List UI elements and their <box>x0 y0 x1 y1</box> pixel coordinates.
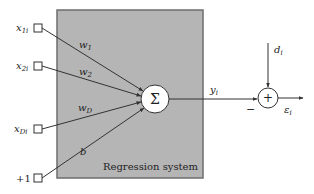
input-node-xD <box>34 125 42 133</box>
minus-sign: − <box>246 103 255 116</box>
regression-diagram: Regression system x1i x2i xDi +1 w1 w2 w… <box>0 0 314 194</box>
input-label-xD: xDi <box>14 123 28 136</box>
desired-label-d: di <box>274 44 283 57</box>
output-label-y: yi <box>209 84 218 97</box>
error-label-epsilon: εi <box>284 104 292 117</box>
weight-label-b: b <box>80 146 86 157</box>
input-node-x2 <box>34 62 42 70</box>
input-label-bias: +1 <box>16 173 31 184</box>
regression-system-label: Regression system <box>103 161 198 172</box>
input-label-x2: x2i <box>16 60 28 73</box>
sigma-icon: Σ <box>150 91 160 107</box>
input-node-bias <box>34 174 42 182</box>
input-label-x1: x1i <box>16 22 28 35</box>
input-node-x1 <box>34 24 42 32</box>
plus-icon: + <box>263 91 273 105</box>
